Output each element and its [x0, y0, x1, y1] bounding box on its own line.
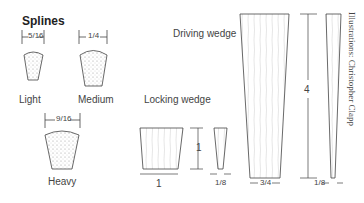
- heavy-width-dim: 9/16: [56, 114, 72, 123]
- medium-width-dim: 1/4: [88, 31, 99, 40]
- light-width-dim: 5/16: [28, 31, 44, 40]
- driving-wedge-label: Driving wedge: [173, 28, 236, 39]
- illustration-credit: Illustrations: Christopher Clapp: [347, 12, 357, 126]
- locking-wedge-thickness-dim: 1/8: [215, 178, 226, 187]
- driving-wedge-thickness-dim: 1/8: [314, 178, 325, 187]
- locking-wedge-height-dim: 1: [196, 142, 202, 153]
- driving-wedge-height-dim: 4: [304, 84, 310, 95]
- light-label: Light: [19, 94, 41, 105]
- diagram-title: Splines: [22, 14, 65, 28]
- locking-wedge-width-dim: 1: [156, 178, 162, 189]
- locking-wedge-label: Locking wedge: [144, 94, 211, 105]
- driving-wedge-width-dim: 3/4: [260, 178, 271, 187]
- heavy-label: Heavy: [48, 176, 76, 187]
- medium-label: Medium: [78, 94, 114, 105]
